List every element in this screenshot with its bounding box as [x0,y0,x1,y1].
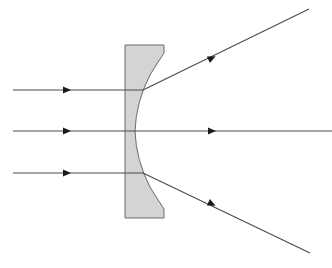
outgoing-ray-upper [143,9,309,90]
arrow-icon-incoming-upper [63,87,71,94]
arrow-icon-outgoing-middle [208,128,216,135]
lens-diagram [0,0,332,268]
arrow-icon-incoming-middle [63,128,71,135]
arrow-icon-incoming-lower [63,170,71,177]
outgoing-ray-lower [143,173,310,253]
